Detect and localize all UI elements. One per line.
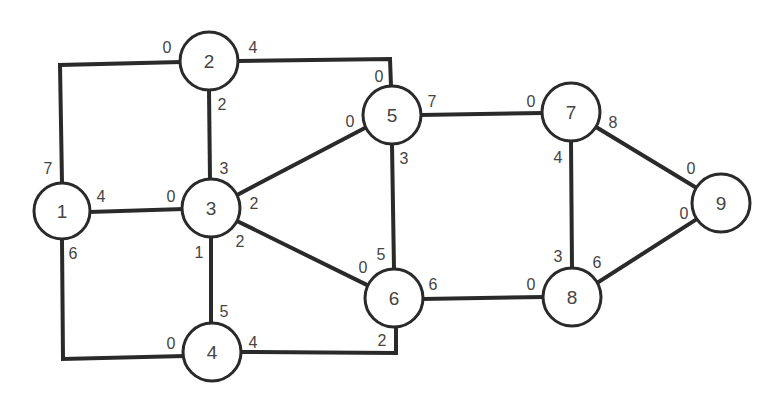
node-label: 1 bbox=[57, 201, 68, 222]
edge-1-4 bbox=[62, 240, 183, 359]
node-9: 9 bbox=[692, 174, 750, 232]
node-label: 3 bbox=[206, 198, 217, 219]
edge-weight-label: 0 bbox=[359, 259, 368, 276]
edge-weight-label: 2 bbox=[250, 195, 259, 212]
node-5: 5 bbox=[363, 86, 421, 144]
edge-1-2 bbox=[60, 62, 180, 183]
edge-weight-label: 5 bbox=[377, 246, 386, 263]
edge-6-8 bbox=[423, 297, 543, 299]
edge-weight-label: 0 bbox=[687, 160, 696, 177]
edge-weight-label: 4 bbox=[97, 188, 106, 205]
edge-weight-label: 3 bbox=[220, 160, 229, 177]
node-label: 8 bbox=[567, 287, 578, 308]
graph-diagram: 704060234020201542703560438060 123456789 bbox=[0, 0, 779, 402]
graph-canvas: 704060234020201542703560438060 123456789 bbox=[0, 0, 779, 402]
node-label: 5 bbox=[387, 105, 398, 126]
edge-weight-label: 0 bbox=[375, 68, 384, 85]
edge-weight-label: 3 bbox=[400, 150, 409, 167]
node-1: 1 bbox=[34, 183, 90, 239]
edge-weight-label: 2 bbox=[236, 233, 245, 250]
edge-weight-label: 2 bbox=[378, 332, 387, 349]
edge-2-3 bbox=[209, 90, 210, 179]
edge-3-6 bbox=[237, 221, 367, 285]
node-2: 2 bbox=[180, 32, 238, 90]
edge-weight-label: 6 bbox=[429, 276, 438, 293]
node-3: 3 bbox=[182, 179, 240, 237]
edge-weight-label: 0 bbox=[167, 335, 176, 352]
edge-5-7 bbox=[421, 113, 542, 115]
node-label: 2 bbox=[204, 51, 215, 72]
edge-weight-label: 2 bbox=[218, 96, 227, 113]
edge-4-6 bbox=[241, 327, 396, 353]
edge-weight-label: 0 bbox=[167, 188, 176, 205]
node-label: 4 bbox=[207, 342, 218, 363]
edge-weight-label: 7 bbox=[44, 160, 53, 177]
node-4: 4 bbox=[183, 323, 241, 381]
edge-3-5 bbox=[237, 128, 365, 195]
node-6: 6 bbox=[365, 269, 423, 327]
edge-weight-label: 0 bbox=[680, 205, 689, 222]
edge-5-6 bbox=[392, 144, 394, 269]
edge-weight-label: 0 bbox=[346, 113, 355, 130]
edge-weight-label: 6 bbox=[593, 254, 602, 271]
edge-weight-label: 5 bbox=[220, 303, 229, 320]
edge-weight-label: 6 bbox=[69, 245, 78, 262]
edge-weight-label: 3 bbox=[554, 248, 563, 265]
edge-7-8 bbox=[571, 141, 572, 268]
node-8: 8 bbox=[543, 268, 601, 326]
node-label: 9 bbox=[716, 193, 727, 214]
node-label: 7 bbox=[566, 102, 577, 123]
edge-weight-label: 4 bbox=[249, 334, 258, 351]
edge-weight-label: 4 bbox=[554, 149, 563, 166]
edge-2-5 bbox=[238, 59, 391, 86]
edge-weight-label: 0 bbox=[527, 93, 536, 110]
edge-7-9 bbox=[596, 127, 695, 187]
edge-8-9 bbox=[597, 219, 697, 283]
edge-weight-label: 0 bbox=[163, 39, 172, 56]
edge-weight-label: 1 bbox=[195, 244, 204, 261]
edge-1-3 bbox=[90, 209, 182, 212]
edge-weight-label: 8 bbox=[609, 114, 618, 131]
edge-weight-label: 4 bbox=[249, 39, 258, 56]
edge-weight-label: 0 bbox=[527, 276, 536, 293]
node-label: 6 bbox=[389, 288, 400, 309]
node-7: 7 bbox=[542, 83, 600, 141]
edge-weight-label: 7 bbox=[428, 93, 437, 110]
